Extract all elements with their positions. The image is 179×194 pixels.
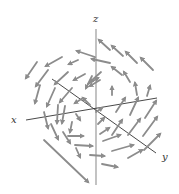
vector-arrow — [102, 164, 117, 167]
vector-arrow — [55, 72, 68, 84]
vector-arrow — [62, 106, 65, 123]
vector-arrow — [90, 155, 104, 156]
vector-arrows — [26, 40, 160, 182]
vector-arrow — [36, 70, 48, 86]
vector-arrow — [145, 101, 156, 118]
vector-arrow — [92, 59, 110, 63]
vector-arrow — [112, 46, 123, 56]
vector-arrow — [147, 86, 150, 96]
vector-arrow — [135, 83, 137, 95]
vector-field-plot: z x y — [0, 0, 179, 194]
vector-arrow — [128, 150, 142, 158]
vector-arrow — [44, 140, 88, 182]
vector-arrow — [112, 145, 133, 151]
vector-arrow — [99, 40, 110, 50]
vector-arrow — [26, 62, 37, 78]
y-axis — [52, 79, 156, 153]
vector-arrow — [143, 117, 157, 136]
vector-arrow — [96, 108, 102, 112]
vector-arrow — [46, 57, 62, 66]
vector-arrow — [69, 60, 78, 64]
vector-arrow — [75, 145, 92, 146]
vector-arrow — [63, 132, 70, 143]
vector-arrow — [76, 114, 80, 120]
vector-arrow — [76, 148, 80, 157]
vector-arrow — [98, 118, 104, 124]
vector-arrow — [47, 88, 55, 106]
vector-arrow — [124, 72, 130, 82]
vector-arrow — [35, 85, 40, 103]
x-axis-label: x — [11, 114, 17, 125]
vector-arrow — [51, 124, 58, 139]
y-axis-label: y — [161, 151, 168, 162]
vector-arrow — [77, 51, 95, 57]
vector-arrow — [126, 52, 137, 63]
vector-arrow — [128, 119, 140, 135]
vector-arrow — [57, 105, 58, 123]
vector-arrow — [44, 112, 48, 128]
vector-arrow — [130, 98, 138, 115]
vector-arrow — [112, 67, 122, 75]
vector-arrow — [141, 58, 153, 70]
vector-arrow — [70, 122, 72, 132]
vector-arrow — [74, 74, 85, 80]
z-axis-label: z — [92, 13, 99, 24]
vector-arrow — [60, 88, 72, 102]
vector-arrow — [103, 135, 120, 141]
vector-arrow — [144, 134, 160, 150]
vector-arrow — [100, 128, 109, 134]
